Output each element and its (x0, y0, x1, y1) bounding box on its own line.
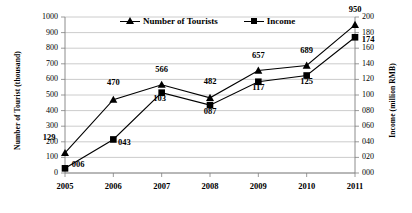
data-label: 006 (63, 159, 93, 169)
x-tick-label: 2010 (285, 181, 329, 191)
data-label: 103 (145, 93, 175, 103)
right-tick-label: 060 (362, 121, 396, 130)
x-tick-label: 2009 (236, 181, 280, 191)
data-label: 129 (34, 132, 64, 142)
chart-legend: Number of Tourists Income (120, 16, 295, 26)
data-label: 689 (292, 45, 322, 55)
square-marker-icon (244, 16, 264, 26)
data-label: 482 (195, 76, 225, 86)
data-label: 043 (109, 137, 139, 147)
data-label: 087 (195, 106, 225, 116)
left-tick-label: 900 (24, 28, 58, 37)
x-tick-label: 2006 (91, 181, 135, 191)
right-tick-label: 160 (362, 43, 396, 52)
x-tick-label: 2011 (333, 181, 377, 191)
right-tick-label: 100 (362, 90, 396, 99)
left-tick-label: 100 (24, 152, 58, 161)
legend-item-income: Income (244, 16, 296, 26)
x-tick-label: 2008 (188, 181, 232, 191)
left-tick-label: 700 (24, 59, 58, 68)
data-label: 174 (353, 34, 383, 44)
x-tick-label: 2005 (43, 181, 87, 191)
triangle-marker-icon (120, 16, 140, 26)
left-tick-label: 1000 (24, 12, 58, 21)
right-tick-label: 000 (362, 168, 396, 177)
right-tick-label: 040 (362, 137, 396, 146)
data-label: 117 (243, 82, 273, 92)
legend-label-tourists: Number of Tourists (143, 16, 218, 26)
x-tick-label: 2007 (140, 181, 184, 191)
series-markers (61, 21, 359, 172)
left-tick-label: 400 (24, 106, 58, 115)
left-tick-label: 600 (24, 74, 58, 83)
data-label: 566 (147, 64, 177, 74)
data-label: 125 (292, 76, 322, 86)
right-tick-label: 080 (362, 106, 396, 115)
dual-axis-line-chart: Number of Tourist (thousand) Income (mil… (0, 0, 412, 213)
left-tick-label: 800 (24, 43, 58, 52)
data-label: 470 (98, 77, 128, 87)
data-label: 657 (243, 50, 273, 60)
right-tick-label: 120 (362, 74, 396, 83)
right-tick-label: 140 (362, 59, 396, 68)
legend-item-tourists: Number of Tourists (120, 16, 218, 26)
left-tick-label: 0 (24, 168, 58, 177)
right-tick-label: 020 (362, 152, 396, 161)
left-tick-label: 500 (24, 90, 58, 99)
data-label: 950 (340, 4, 370, 14)
left-tick-label: 300 (24, 121, 58, 130)
legend-label-income: Income (267, 16, 296, 26)
